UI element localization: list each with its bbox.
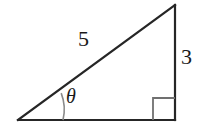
opposite-side-length-label: 3 [181,46,192,68]
figure-canvas: 5 3 θ [0,0,203,129]
right-angle-marker-icon [153,98,175,120]
triangle-side-hypotenuse [18,5,175,120]
triangle-graphic [0,0,203,129]
angle-arc-icon [61,93,64,120]
hypotenuse-length-label: 5 [78,28,89,50]
angle-theta-label: θ [66,86,76,106]
